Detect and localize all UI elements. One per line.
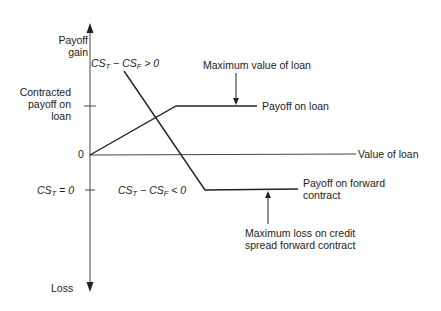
max-value-loan-label: Maximum value of loan	[203, 59, 311, 71]
cs-positive-label: CST − CSF > 0	[91, 57, 159, 69]
arrow-up-icon	[265, 191, 271, 198]
cs-zero-label: CST = 0	[37, 184, 74, 196]
x-axis	[90, 154, 356, 155]
x-axis-label: Value of loan	[358, 148, 419, 160]
loan-payoff-line	[90, 106, 257, 155]
forward-payoff-line	[124, 71, 298, 190]
y-axis-top-label: Payoff gain	[58, 34, 88, 58]
origin-label: 0	[78, 148, 84, 160]
max-loss-label: Maximum loss on credit spread forward co…	[245, 227, 355, 251]
arrow-down-icon	[87, 282, 94, 292]
payoff-loan-label: Payoff on loan	[262, 100, 329, 112]
cs-negative-label: CST − CSF < 0	[118, 184, 186, 196]
arrow-down-icon	[233, 98, 239, 105]
label-payoff: Payoff	[58, 34, 88, 46]
loss-label: Loss	[51, 282, 73, 294]
arrow-up-icon	[87, 23, 94, 33]
contracted-payoff-label: Contracted payoff on loan	[20, 86, 71, 122]
label-gain: gain	[58, 46, 88, 58]
payoff-forward-label: Payoff on forward contract	[303, 177, 385, 201]
